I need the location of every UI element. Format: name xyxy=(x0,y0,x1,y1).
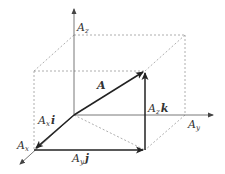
axes xyxy=(20,9,213,164)
label-ay: Ay xyxy=(187,118,201,132)
vectors xyxy=(34,72,145,150)
label-ax: Ax xyxy=(16,139,29,153)
vector-diagram: Az A Axi Azk Ay Ax Ayj xyxy=(0,0,225,174)
vector-a xyxy=(74,72,143,115)
label-a: A xyxy=(96,79,106,92)
label-az: Az xyxy=(76,21,89,35)
label-azk: Azk xyxy=(147,102,169,116)
label-axi: Axi xyxy=(37,114,55,128)
label-ayj: Ayj xyxy=(71,152,89,166)
